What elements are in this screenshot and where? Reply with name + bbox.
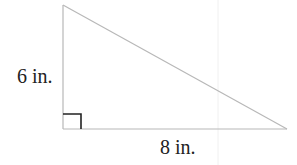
- right-angle-marker: [63, 114, 81, 129]
- height-label: 6 in.: [17, 66, 53, 86]
- hypotenuse-edge: [63, 5, 287, 129]
- base-label: 8 in.: [160, 137, 196, 157]
